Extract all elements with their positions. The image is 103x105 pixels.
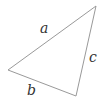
triangle-diagram: a c b (0, 0, 103, 105)
side-label-b: b (27, 82, 36, 98)
triangle (8, 6, 96, 96)
side-label-c: c (89, 49, 97, 65)
side-label-a: a (40, 20, 48, 36)
